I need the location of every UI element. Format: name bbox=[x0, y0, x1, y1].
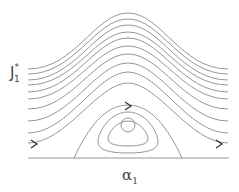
arrow-left-icon bbox=[31, 140, 37, 148]
arrow-top-icon bbox=[125, 102, 131, 110]
closed-orbits bbox=[98, 112, 158, 153]
phase-portrait bbox=[0, 0, 239, 192]
x-axis-label: α1 bbox=[122, 166, 138, 186]
open-trajectories bbox=[28, 13, 228, 143]
y-axis-label: J*1 bbox=[10, 64, 20, 84]
separatrix bbox=[74, 105, 182, 158]
arrow-right-icon bbox=[216, 140, 222, 148]
